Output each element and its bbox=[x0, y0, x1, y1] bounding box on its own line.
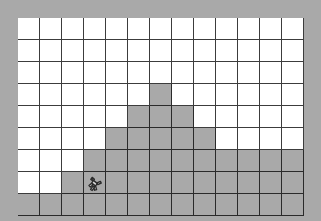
grid-cell-r0-c12[interactable] bbox=[282, 18, 304, 40]
grid-cell-r7-c0[interactable] bbox=[18, 172, 40, 194]
grid-cell-r2-c2[interactable] bbox=[62, 62, 84, 84]
grid-cell-r4-c3[interactable] bbox=[84, 106, 106, 128]
grid-cell-r4-c12[interactable] bbox=[282, 106, 304, 128]
brick-block-r8-c0[interactable] bbox=[18, 194, 40, 216]
grid-cell-r0-c9[interactable] bbox=[216, 18, 238, 40]
brick-block-r6-c9[interactable] bbox=[216, 150, 238, 172]
brick-block-r3-c6[interactable] bbox=[150, 84, 172, 106]
brick-block-r8-c9[interactable] bbox=[216, 194, 238, 216]
grid-cell-r5-c1[interactable] bbox=[40, 128, 62, 150]
grid-cell-r5-c3[interactable] bbox=[84, 128, 106, 150]
grid-cell-r1-c1[interactable] bbox=[40, 40, 62, 62]
grid-cell-r0-c3[interactable] bbox=[84, 18, 106, 40]
grid-cell-r1-c5[interactable] bbox=[128, 40, 150, 62]
brick-block-r5-c4[interactable] bbox=[106, 128, 128, 150]
grid-cell-r1-c7[interactable] bbox=[172, 40, 194, 62]
grid-cell-r4-c11[interactable] bbox=[260, 106, 282, 128]
grid-cell-r3-c9[interactable] bbox=[216, 84, 238, 106]
brick-block-r5-c8[interactable] bbox=[194, 128, 216, 150]
grid-cell-r2-c8[interactable] bbox=[194, 62, 216, 84]
brick-block-r7-c7[interactable] bbox=[172, 172, 194, 194]
grid-cell-r7-c1[interactable] bbox=[40, 172, 62, 194]
brick-block-r8-c4[interactable] bbox=[106, 194, 128, 216]
grid-cell-r0-c5[interactable] bbox=[128, 18, 150, 40]
grid-cell-r1-c6[interactable] bbox=[150, 40, 172, 62]
brick-block-r8-c7[interactable] bbox=[172, 194, 194, 216]
brick-block-r8-c6[interactable] bbox=[150, 194, 172, 216]
grid-cell-r1-c3[interactable] bbox=[84, 40, 106, 62]
grid-cell-r1-c10[interactable] bbox=[238, 40, 260, 62]
grid-cell-r0-c1[interactable] bbox=[40, 18, 62, 40]
grid-cell-r2-c3[interactable] bbox=[84, 62, 106, 84]
grid-cell-r5-c10[interactable] bbox=[238, 128, 260, 150]
grid-cell-r4-c8[interactable] bbox=[194, 106, 216, 128]
grid-cell-r5-c0[interactable] bbox=[18, 128, 40, 150]
brick-block-r8-c12[interactable] bbox=[282, 194, 304, 216]
grid-cell-r4-c2[interactable] bbox=[62, 106, 84, 128]
grid-cell-r2-c6[interactable] bbox=[150, 62, 172, 84]
brick-block-r7-c6[interactable] bbox=[150, 172, 172, 194]
grid-cell-r5-c2[interactable] bbox=[62, 128, 84, 150]
brick-block-r7-c2[interactable] bbox=[62, 172, 84, 194]
grid-cell-r6-c1[interactable] bbox=[40, 150, 62, 172]
brick-block-r8-c5[interactable] bbox=[128, 194, 150, 216]
grid-cell-r1-c12[interactable] bbox=[282, 40, 304, 62]
grid-cell-r2-c7[interactable] bbox=[172, 62, 194, 84]
grid-cell-r3-c7[interactable] bbox=[172, 84, 194, 106]
grid-cell-r3-c5[interactable] bbox=[128, 84, 150, 106]
grid-cell-r1-c11[interactable] bbox=[260, 40, 282, 62]
grid-cell-r0-c0[interactable] bbox=[18, 18, 40, 40]
grid-cell-r6-c0[interactable] bbox=[18, 150, 40, 172]
grid-cell-r4-c10[interactable] bbox=[238, 106, 260, 128]
brick-block-r7-c12[interactable] bbox=[282, 172, 304, 194]
brick-block-r6-c10[interactable] bbox=[238, 150, 260, 172]
grid-cell-r2-c5[interactable] bbox=[128, 62, 150, 84]
brick-block-r4-c5[interactable] bbox=[128, 106, 150, 128]
brick-block-r4-c7[interactable] bbox=[172, 106, 194, 128]
grid-cell-r3-c8[interactable] bbox=[194, 84, 216, 106]
brick-block-r6-c12[interactable] bbox=[282, 150, 304, 172]
brick-block-r7-c9[interactable] bbox=[216, 172, 238, 194]
grid-cell-r3-c1[interactable] bbox=[40, 84, 62, 106]
grid-cell-r6-c2[interactable] bbox=[62, 150, 84, 172]
grid-cell-r4-c1[interactable] bbox=[40, 106, 62, 128]
brick-block-r5-c5[interactable] bbox=[128, 128, 150, 150]
grid-cell-r2-c4[interactable] bbox=[106, 62, 128, 84]
grid-cell-r1-c0[interactable] bbox=[18, 40, 40, 62]
brick-block-r7-c10[interactable] bbox=[238, 172, 260, 194]
grid-cell-r0-c4[interactable] bbox=[106, 18, 128, 40]
grid-cell-r3-c4[interactable] bbox=[106, 84, 128, 106]
brick-block-r6-c7[interactable] bbox=[172, 150, 194, 172]
grid-cell-r2-c1[interactable] bbox=[40, 62, 62, 84]
brick-block-r8-c1[interactable] bbox=[40, 194, 62, 216]
grid-cell-r1-c2[interactable] bbox=[62, 40, 84, 62]
brick-block-r6-c6[interactable] bbox=[150, 150, 172, 172]
grid-cell-r4-c4[interactable] bbox=[106, 106, 128, 128]
grid-cell-r2-c10[interactable] bbox=[238, 62, 260, 84]
brick-block-r4-c6[interactable] bbox=[150, 106, 172, 128]
brick-block-r6-c5[interactable] bbox=[128, 150, 150, 172]
grid-cell-r3-c0[interactable] bbox=[18, 84, 40, 106]
brick-block-r8-c2[interactable] bbox=[62, 194, 84, 216]
grid-cell-r1-c8[interactable] bbox=[194, 40, 216, 62]
grid-cell-r1-c4[interactable] bbox=[106, 40, 128, 62]
grid-cell-r2-c12[interactable] bbox=[282, 62, 304, 84]
grid-cell-r4-c0[interactable] bbox=[18, 106, 40, 128]
brick-block-r7-c5[interactable] bbox=[128, 172, 150, 194]
brick-block-r8-c8[interactable] bbox=[194, 194, 216, 216]
grid-cell-r0-c10[interactable] bbox=[238, 18, 260, 40]
grid-cell-r5-c9[interactable] bbox=[216, 128, 238, 150]
player-character[interactable] bbox=[85, 174, 105, 194]
grid-cell-r2-c0[interactable] bbox=[18, 62, 40, 84]
brick-block-r8-c3[interactable] bbox=[84, 194, 106, 216]
brick-block-r7-c4[interactable] bbox=[106, 172, 128, 194]
grid-cell-r3-c2[interactable] bbox=[62, 84, 84, 106]
grid-cell-r1-c9[interactable] bbox=[216, 40, 238, 62]
grid-cell-r0-c11[interactable] bbox=[260, 18, 282, 40]
brick-block-r8-c10[interactable] bbox=[238, 194, 260, 216]
brick-block-r6-c8[interactable] bbox=[194, 150, 216, 172]
game-board[interactable] bbox=[0, 0, 321, 221]
grid-cell-r2-c11[interactable] bbox=[260, 62, 282, 84]
grid-cell-r3-c10[interactable] bbox=[238, 84, 260, 106]
brick-block-r7-c8[interactable] bbox=[194, 172, 216, 194]
